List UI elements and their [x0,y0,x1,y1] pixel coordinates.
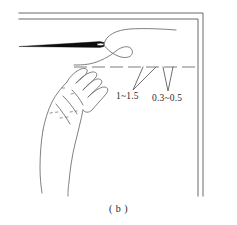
figure-line-art [0,0,237,225]
stitch-length-label: 1~1.5 [116,92,139,102]
figure-caption: ( b ) [0,203,237,214]
sewing-technique-figure: 1~1.5 0.3~0.5 ( b ) [0,0,237,225]
stitch-depth-label: 0.3~0.5 [152,94,182,104]
needle-eye [97,43,104,46]
figure-background [0,0,237,225]
